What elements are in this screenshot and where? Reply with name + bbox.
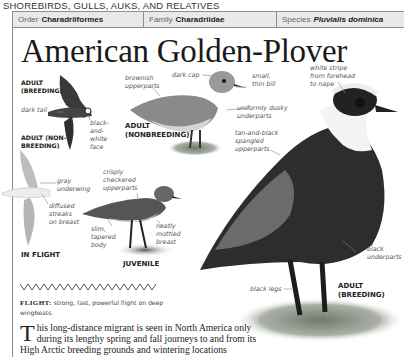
flight-label: FLIGHT:	[20, 299, 52, 307]
annotation-slim-tapered: slim, tapered body	[91, 225, 116, 249]
caption-adult-breeding-flight: ADULT (BREEDING)	[21, 79, 62, 95]
caption-in-flight: IN FLIGHT	[21, 251, 60, 260]
annotation-black-white-face: black- and- white face	[90, 119, 109, 151]
annotation-tan-black-spangled: tan-and-black spangled upperparts	[235, 129, 278, 153]
annotation-white-stripe: white stripe from forehead to nape	[310, 64, 355, 88]
annotation-dark-cap: dark cap	[172, 71, 199, 79]
annotation-dark-tail: dark tail	[21, 106, 47, 114]
annotation-gray-underwing: gray underwing	[57, 177, 90, 193]
annotation-crisply-checkered: crisply checkered upperparts	[103, 168, 138, 192]
species-description: This long-distance migrant is seen in No…	[20, 322, 258, 355]
caption-text: ADULT (BREEDING)	[21, 79, 62, 94]
caption-text: ADULT (BREEDING)	[338, 282, 385, 299]
caption-juvenile: JUVENILE	[123, 260, 159, 269]
annotation-neatly-mottled: neatly mottled breast	[156, 222, 181, 246]
annotation-black-legs: black legs	[250, 285, 282, 293]
annotation-diffused-streaks: diffused streaks on breast	[49, 202, 79, 226]
drop-cap: T	[20, 323, 35, 343]
annotation-black-underparts: black underparts	[367, 245, 402, 261]
annotation-small-thin-bill: small, thin bill	[252, 72, 275, 88]
caption-text: ADULT (NON- BREEDING)	[21, 134, 66, 149]
caption-adult-breeding: ADULT (BREEDING)	[338, 282, 385, 300]
flight-description: FLIGHT: strong, fast, powerful flight on…	[20, 298, 170, 317]
caption-text: ADULT (NONBREEDING)	[125, 122, 189, 139]
caption-adult-nonbreeding-flight: ADULT (NON- BREEDING)	[21, 134, 66, 150]
breeding-adult-illustration	[200, 84, 404, 342]
flight-pattern-zigzag-icon	[20, 282, 160, 292]
flying-nonbreeding-adult-illustration	[2, 150, 50, 246]
description-text: his long-distance migrant is seen in Nor…	[20, 322, 256, 355]
annotation-uniformly-dusky: uniformly dusky underparts	[237, 104, 288, 120]
annotation-brownish-upperparts: brownish upperparts	[125, 74, 160, 90]
caption-adult-nonbreeding: ADULT (NONBREEDING)	[125, 122, 189, 140]
